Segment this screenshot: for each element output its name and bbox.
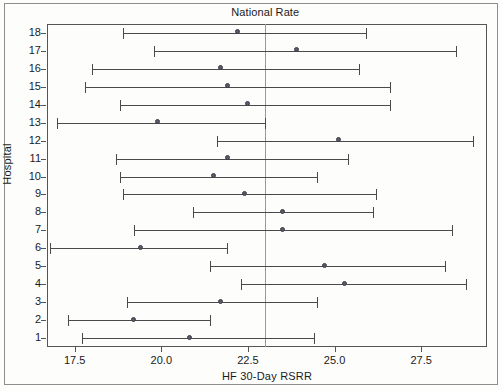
estimate-marker (131, 317, 136, 322)
interval-lower-cap (217, 136, 218, 147)
confidence-interval-line (57, 123, 265, 124)
y-axis-tick-label: 10 (17, 171, 41, 182)
y-axis-tick (41, 338, 46, 339)
estimate-marker (218, 299, 223, 304)
confidence-interval-line (116, 159, 348, 160)
interval-lower-cap (193, 207, 194, 218)
confidence-interval-line (217, 141, 473, 142)
y-axis-tick-label: 9 (17, 188, 41, 199)
interval-upper-cap (210, 315, 211, 326)
estimate-marker (225, 83, 230, 88)
confidence-interval-line (120, 105, 390, 106)
interval-row (47, 204, 487, 220)
interval-lower-cap (116, 154, 117, 165)
y-axis-tick (41, 141, 46, 142)
x-axis-tick-labels: 17.520.022.525.027.5 (47, 354, 487, 368)
interval-upper-cap (265, 118, 266, 129)
x-axis-title: HF 30-Day RSRR (47, 370, 487, 382)
interval-row (47, 240, 487, 256)
confidence-interval-line (92, 69, 359, 70)
y-axis-tick (41, 284, 46, 285)
estimate-marker (242, 191, 247, 196)
x-axis-tick (335, 347, 336, 352)
interval-lower-cap (92, 64, 93, 75)
interval-upper-cap (473, 136, 474, 147)
estimate-marker (336, 137, 341, 142)
y-axis-tick-label: 5 (17, 260, 41, 271)
national-rate-annotation-label: National Rate (205, 6, 325, 18)
interval-lower-cap (134, 225, 135, 236)
estimate-marker (225, 155, 230, 160)
confidence-interval-line (123, 194, 376, 195)
y-axis-tick (41, 302, 46, 303)
plot-area (47, 24, 487, 347)
x-axis-ticks (47, 347, 487, 353)
interval-lower-cap (85, 82, 86, 93)
interval-upper-cap (376, 189, 377, 200)
y-axis-tick-label: 7 (17, 224, 41, 235)
x-axis-tick-label: 27.5 (410, 354, 431, 366)
interval-row (47, 151, 487, 167)
interval-row (47, 169, 487, 185)
interval-upper-cap (227, 243, 228, 254)
y-axis-tick-label: 15 (17, 81, 41, 92)
interval-row (47, 294, 487, 310)
y-axis-tick (41, 230, 46, 231)
interval-lower-cap (120, 172, 121, 183)
estimate-marker (211, 173, 216, 178)
y-axis-tick-label: 17 (17, 45, 41, 56)
y-axis-tick-label: 11 (17, 153, 41, 164)
confidence-interval-line (210, 266, 446, 267)
confidence-interval-line (154, 51, 455, 52)
y-axis-tick (41, 105, 46, 106)
interval-row (47, 79, 487, 95)
confidence-interval-line (123, 33, 366, 34)
interval-row (47, 115, 487, 131)
x-axis-tick-label: 20.0 (151, 354, 172, 366)
y-axis-tick (41, 177, 46, 178)
interval-row (47, 133, 487, 149)
y-axis-tick (41, 87, 46, 88)
y-axis-tick-label: 18 (17, 27, 41, 38)
y-axis-tick-label: 6 (17, 242, 41, 253)
confidence-interval-line (85, 87, 390, 88)
x-axis-tick (75, 347, 76, 352)
interval-upper-cap (348, 154, 349, 165)
y-axis-tick (41, 266, 46, 267)
chart-figure: National Rate 12345678910111213141516171… (0, 0, 502, 391)
interval-lower-cap (154, 46, 155, 57)
confidence-interval-line (241, 284, 466, 285)
y-axis-tick (41, 212, 46, 213)
interval-upper-cap (317, 172, 318, 183)
interval-lower-cap (82, 333, 83, 344)
y-axis-tick-label: 8 (17, 206, 41, 217)
interval-row (47, 186, 487, 202)
interval-lower-cap (57, 118, 58, 129)
estimate-marker (280, 209, 285, 214)
y-axis-tick (41, 194, 46, 195)
interval-upper-cap (390, 100, 391, 111)
interval-lower-cap (127, 297, 128, 308)
y-axis-tick-label: 12 (17, 135, 41, 146)
interval-row (47, 43, 487, 59)
y-axis-tick (41, 320, 46, 321)
interval-upper-cap (366, 28, 367, 39)
y-axis-tick-label: 16 (17, 63, 41, 74)
interval-lower-cap (68, 315, 69, 326)
x-axis-tick-label: 25.0 (324, 354, 345, 366)
y-axis-tick (41, 248, 46, 249)
y-axis-tick (41, 33, 46, 34)
confidence-interval-line (134, 230, 453, 231)
x-axis-tick (248, 347, 249, 352)
interval-lower-cap (120, 100, 121, 111)
y-axis-tick-label: 4 (17, 278, 41, 289)
interval-row (47, 258, 487, 274)
y-axis-tick-label: 13 (17, 117, 41, 128)
x-axis-tick (421, 347, 422, 352)
interval-upper-cap (445, 261, 446, 272)
interval-row (47, 312, 487, 328)
y-axis-tick-label: 14 (17, 99, 41, 110)
interval-lower-cap (210, 261, 211, 272)
interval-upper-cap (452, 225, 453, 236)
x-axis-tick-label: 17.5 (64, 354, 85, 366)
